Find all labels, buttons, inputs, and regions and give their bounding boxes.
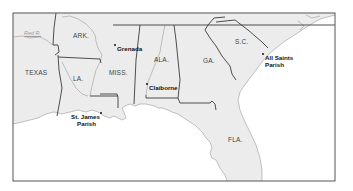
- place-label-claiborne: Claiborne: [149, 85, 178, 92]
- state-label-louisiana: LA.: [73, 76, 83, 83]
- state-label-alabama: ALA.: [154, 57, 169, 64]
- map: Red R. TEXAS ARK. LA. MISS. ALA. GA. S.C…: [0, 0, 353, 191]
- place-label-st-james-line2: Parish: [70, 121, 100, 128]
- state-label-mississippi: MISS.: [109, 70, 128, 77]
- state-label-arkansas: ARK.: [73, 33, 89, 40]
- state-label-florida: FLA.: [228, 137, 243, 144]
- place-label-st-james-parish: St. James Parish: [70, 114, 100, 127]
- map-canvas: [0, 0, 353, 191]
- river-label-red-river: Red R.: [24, 31, 41, 37]
- state-label-georgia: GA.: [203, 58, 215, 65]
- state-label-south-carolina: S.C.: [235, 39, 248, 46]
- place-label-grenada: Grenada: [117, 46, 142, 53]
- state-label-texas: TEXAS: [25, 70, 47, 77]
- place-label-all-saints-parish: All Saints Parish: [265, 55, 293, 68]
- place-label-all-saints-line2: Parish: [265, 62, 293, 69]
